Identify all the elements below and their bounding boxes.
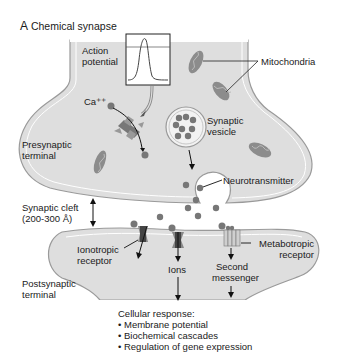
response-item: Regulation of gene expression bbox=[118, 341, 252, 352]
label-line: Action bbox=[82, 45, 118, 56]
cellular-response-list: Membrane potential Biochemical cascades … bbox=[118, 319, 252, 352]
label-line: Second bbox=[212, 261, 252, 272]
panel-letter: A bbox=[20, 19, 28, 33]
label-ionotropic-receptor: Ionotropic receptor bbox=[77, 244, 119, 266]
label-line: Synaptic cleft bbox=[22, 202, 79, 213]
label-second-messenger: Second messenger bbox=[212, 261, 252, 283]
synaptic-vesicle-icon bbox=[166, 107, 206, 147]
cellular-response: Cellular response: Membrane potential Bi… bbox=[118, 308, 252, 352]
response-item: Membrane potential bbox=[118, 319, 252, 330]
label-synaptic-vesicle: Synaptic vesicle bbox=[207, 115, 243, 137]
label-metabotropic-receptor: Metabotropic receptor bbox=[252, 238, 314, 260]
label-calcium: Ca⁺⁺ bbox=[84, 96, 106, 107]
label-line: Synaptic bbox=[207, 115, 243, 126]
action-potential-graph bbox=[126, 34, 170, 85]
label-line: receptor bbox=[252, 249, 314, 260]
title-text: Chemical synapse bbox=[31, 20, 117, 32]
label-line: receptor bbox=[77, 255, 119, 266]
cellular-response-heading: Cellular response: bbox=[118, 308, 252, 319]
diagram-title: A Chemical synapse bbox=[20, 19, 117, 33]
label-line: Postsynaptic bbox=[22, 278, 76, 289]
label-postsynaptic-terminal: Postsynaptic terminal bbox=[22, 278, 76, 300]
label-presynaptic-terminal: Presynaptic terminal bbox=[22, 139, 72, 161]
label-line: Ionotropic bbox=[77, 244, 119, 255]
label-line: Presynaptic bbox=[22, 139, 72, 150]
label-line: (200-300 Å) bbox=[22, 213, 79, 224]
label-mitochondria: Mitochondria bbox=[261, 56, 315, 67]
label-line: Metabotropic bbox=[252, 238, 314, 249]
label-action-potential: Action potential bbox=[82, 45, 118, 67]
label-line: potential bbox=[82, 56, 118, 67]
label-line: terminal bbox=[22, 289, 76, 300]
label-ions: Ions bbox=[168, 264, 186, 275]
label-line: messenger bbox=[212, 272, 252, 283]
label-synaptic-cleft: Synaptic cleft (200-300 Å) bbox=[22, 202, 79, 224]
label-neurotransmitter: Neurotransmitter bbox=[223, 175, 294, 186]
label-line: terminal bbox=[22, 150, 72, 161]
label-line: vesicle bbox=[207, 126, 243, 137]
response-item: Biochemical cascades bbox=[118, 330, 252, 341]
